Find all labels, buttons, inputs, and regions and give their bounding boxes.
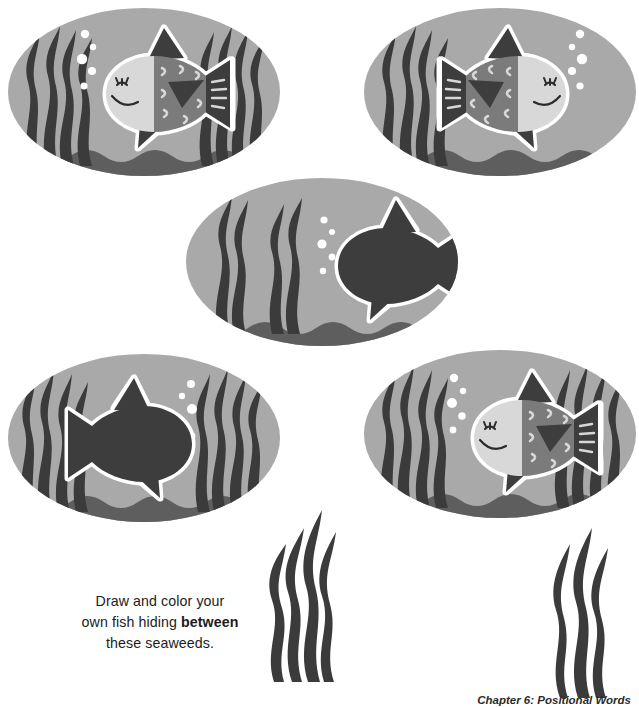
seabed — [184, 322, 460, 348]
bubble — [450, 427, 457, 434]
fish-scene-top-right — [362, 6, 638, 178]
bubble — [458, 412, 466, 420]
footer-caption: Chapter 6: Positional Words — [477, 694, 631, 707]
fish-scene-bottom-right — [362, 348, 638, 520]
prompt-line-1: Draw and color your — [96, 593, 225, 609]
bubble — [187, 380, 195, 388]
prompt-keyword-between: between — [181, 614, 238, 630]
fish-scene-top-left — [6, 6, 282, 178]
bubble — [447, 398, 457, 408]
bubble — [320, 216, 327, 223]
seabed — [362, 150, 638, 178]
seaweed-blade — [303, 510, 322, 682]
bubble — [179, 393, 185, 399]
bubble — [569, 44, 575, 50]
bubble — [80, 82, 87, 89]
bubble — [450, 374, 458, 382]
bubble — [88, 67, 96, 75]
seabed — [362, 494, 638, 520]
seabed — [6, 150, 282, 178]
seaweed-blade — [591, 548, 608, 698]
prompt-text: Draw and color your own fish hiding betw… — [60, 591, 260, 654]
seaweed-cluster-center — [252, 496, 364, 682]
bubble — [577, 54, 587, 64]
bubble — [187, 404, 197, 414]
bubble — [320, 268, 326, 274]
bubble — [81, 30, 89, 38]
prompt-line-3: these seaweeds. — [106, 635, 214, 651]
bubble — [576, 82, 583, 89]
worksheet-page: Draw and color your own fish hiding betw… — [0, 0, 639, 707]
seaweed-blade — [286, 528, 304, 682]
bubble — [568, 67, 576, 75]
seaweed-cluster-right — [538, 518, 630, 698]
bubble — [576, 30, 584, 38]
seaweed-blade — [573, 528, 592, 698]
bubble — [77, 54, 87, 64]
bubble — [317, 239, 326, 248]
bubble — [90, 44, 96, 50]
fish-scene-middle — [184, 176, 460, 348]
seaweed-blade — [269, 544, 286, 682]
seaweed-blade — [553, 544, 570, 698]
bubble — [460, 388, 466, 394]
fish-scene-bottom-left — [6, 352, 282, 524]
prompt-line-2-pre: own fish hiding — [82, 614, 181, 630]
bubble — [329, 229, 335, 235]
seabed — [6, 496, 282, 524]
bubble — [329, 254, 336, 261]
seaweed-blade — [319, 532, 336, 682]
